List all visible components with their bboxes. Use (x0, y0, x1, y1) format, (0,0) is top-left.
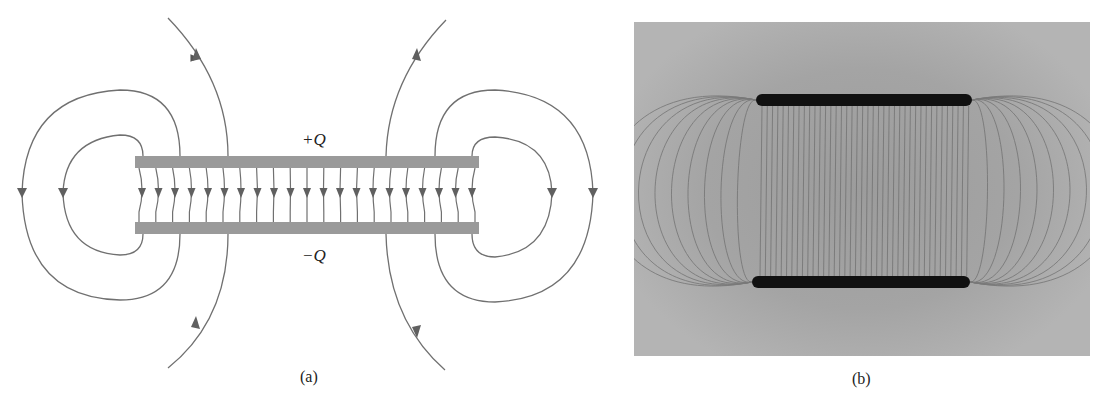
photo-top-plate (756, 94, 972, 106)
field-line-outer-left-bottom (168, 234, 228, 368)
field-line-loop-left-outer (22, 90, 180, 300)
field-line-loop-left-inner (63, 135, 143, 255)
diagram-parallel-plate-capacitor (0, 0, 620, 409)
photo-bottom-plate (752, 276, 970, 288)
field-line-photograph (634, 22, 1090, 356)
field-line-loop-right-outer (435, 90, 593, 302)
bottom-plate (135, 222, 479, 234)
field-line-loop-right-inner (472, 137, 552, 257)
bottom-plate-charge-label: −Q (302, 246, 326, 266)
caption-b: (b) (852, 370, 871, 388)
field-line-outer-left-top (168, 18, 228, 156)
top-plate-charge-label: +Q (302, 130, 326, 150)
top-plate (135, 156, 479, 168)
caption-a: (a) (300, 368, 318, 386)
